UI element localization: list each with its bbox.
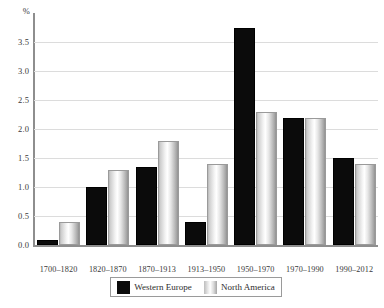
bar-north-america bbox=[59, 222, 80, 245]
x-axis-line bbox=[33, 245, 378, 247]
legend-label: North America bbox=[221, 282, 275, 292]
bar-north-america bbox=[256, 112, 277, 246]
y-axis-tick-label: 3.5 bbox=[18, 37, 29, 47]
y-axis-tick-label: 0.5 bbox=[18, 211, 29, 221]
bar-western-europe bbox=[86, 187, 107, 245]
bar-group bbox=[283, 13, 326, 245]
black-swatch bbox=[117, 281, 130, 294]
x-axis-tick-label: 1990–2012 bbox=[319, 265, 384, 274]
legend-label: Western Europe bbox=[134, 282, 192, 292]
bar-north-america bbox=[207, 164, 228, 245]
chart-legend: Western EuropeNorth America bbox=[110, 277, 282, 297]
legend-item: North America bbox=[204, 281, 275, 294]
bar-north-america bbox=[355, 164, 376, 245]
y-axis-tick-label: 0.0 bbox=[18, 240, 29, 250]
bar-group bbox=[234, 13, 277, 245]
y-axis-tick-label: 3.0 bbox=[18, 66, 29, 76]
bar-chart: % 0.00.51.01.52.02.53.03.5 1700–18201820… bbox=[0, 0, 384, 308]
bar-western-europe bbox=[234, 28, 255, 246]
bar-north-america bbox=[108, 170, 129, 246]
y-axis-tick-label: 1.0 bbox=[18, 182, 29, 192]
y-axis-tick-label: 2.0 bbox=[18, 124, 29, 134]
gradient-swatch bbox=[204, 281, 217, 294]
bar-north-america bbox=[158, 141, 179, 246]
bar-western-europe bbox=[283, 118, 304, 246]
legend-item: Western Europe bbox=[117, 281, 192, 294]
bar-western-europe bbox=[185, 222, 206, 245]
bar-group bbox=[333, 13, 376, 245]
bar-group bbox=[136, 13, 179, 245]
y-axis-tick-label: 2.5 bbox=[18, 95, 29, 105]
bar-western-europe bbox=[333, 158, 354, 245]
bar-western-europe bbox=[136, 167, 157, 245]
bar-group bbox=[37, 13, 80, 245]
y-axis-tick-label: 1.5 bbox=[18, 153, 29, 163]
bar-group bbox=[86, 13, 129, 245]
bar-group bbox=[185, 13, 228, 245]
y-axis-unit-label: % bbox=[0, 6, 30, 16]
bar-western-europe bbox=[37, 240, 58, 246]
plot-area: 0.00.51.01.52.02.53.03.5 1700–18201820–1… bbox=[33, 13, 378, 247]
bar-north-america bbox=[305, 118, 326, 246]
